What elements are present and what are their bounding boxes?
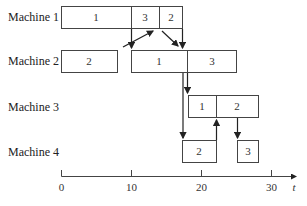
machine-1-label: Machine 1 [8,10,59,24]
precedence-arrows [123,29,238,140]
m4-job-2-label: 2 [196,145,202,157]
m1-job-1-label: 1 [93,11,99,23]
tick-label-0: 0 [59,181,65,193]
m2-job-2-label: 2 [86,55,92,67]
m1-job-3-label: 3 [142,11,148,23]
m4-job-3-label: 3 [245,145,251,157]
m2-job-3-label: 3 [209,55,215,67]
schedule-diagram: Machine 1 Machine 2 Machine 3 Machine 4 … [0,0,307,206]
machine-1-row [62,7,183,29]
time-axis: 0 10 20 30 t [59,170,297,193]
machine-2-label: Machine 2 [8,54,59,68]
m2-job-1-label: 1 [156,55,162,67]
tick-label-30: 30 [266,181,278,193]
machine-4-label: Machine 4 [8,145,59,159]
m3-job-2-label: 2 [234,100,240,112]
tick-label-10: 10 [126,181,138,193]
m1-job-2-label: 2 [168,11,174,23]
m3-job-1-label: 1 [199,100,205,112]
tick-label-20: 20 [196,181,208,193]
machine-3-label: Machine 3 [8,100,59,114]
axis-label-t: t [292,181,296,193]
arrow-m2-to-m1-job3 [123,31,153,47]
arrow-m1-to-m2-job2 [162,31,178,46]
